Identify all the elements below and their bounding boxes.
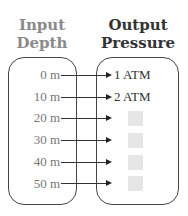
output-header-line1: Output xyxy=(92,16,184,34)
pressure-value: 1 ATM xyxy=(114,68,150,82)
mapping-line xyxy=(61,75,109,76)
depth-value: 20 m xyxy=(10,111,60,125)
arrow-head-icon xyxy=(106,180,112,186)
depth-value: 50 m xyxy=(10,177,60,191)
arrow-head-icon xyxy=(106,137,112,143)
pressure-blank-box[interactable] xyxy=(128,155,143,170)
pressure-blank-box[interactable] xyxy=(128,111,143,126)
input-header-line2: Depth xyxy=(2,34,82,52)
depth-value: 10 m xyxy=(10,90,60,104)
arrow-head-icon xyxy=(106,94,112,100)
pressure-blank-box[interactable] xyxy=(128,176,143,191)
output-pressure-header: Output Pressure xyxy=(92,16,184,52)
mapping-line xyxy=(61,97,109,98)
input-header-line1: Input xyxy=(2,16,82,34)
output-header-line2: Pressure xyxy=(92,34,184,52)
pressure-value: 2 ATM xyxy=(114,90,150,104)
arrow-head-icon xyxy=(106,159,112,165)
arrow-head-icon xyxy=(106,115,112,121)
depth-value: 0 m xyxy=(10,68,60,82)
depth-value: 30 m xyxy=(10,133,60,147)
arrow-head-icon xyxy=(106,72,112,78)
depth-value: 40 m xyxy=(10,155,60,169)
mapping-line xyxy=(61,162,109,163)
input-depth-header: Input Depth xyxy=(2,16,82,52)
mapping-line xyxy=(61,140,109,141)
pressure-blank-box[interactable] xyxy=(128,133,143,148)
mapping-line xyxy=(61,118,109,119)
mapping-line xyxy=(61,183,109,184)
